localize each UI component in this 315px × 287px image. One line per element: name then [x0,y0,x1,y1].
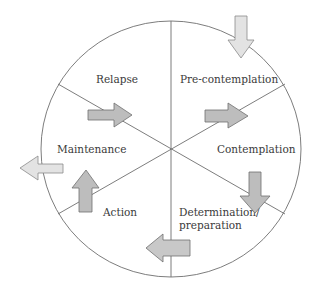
stage-label-precontemplation: Pre-contemplation [180,73,278,85]
stage-label-determination-line2: preparation [179,219,242,231]
stage-label-contemplation: Contemplation [217,143,296,155]
arrow-right-relapse-icon [88,103,132,127]
stages-of-change-diagram: Relapse Pre-contemplation Contemplation … [0,0,315,287]
stage-label-relapse: Relapse [96,73,138,85]
arrow-right-precontemplation-icon [205,103,248,128]
arrow-down-entry-icon [228,16,254,58]
stage-label-determination-line1: Determination/ [179,206,260,218]
arrow-up-action-icon [72,170,99,212]
stage-label-action: Action [102,206,137,218]
stage-label-maintenance: Maintenance [57,143,126,155]
arrow-left-determination-icon [146,234,190,262]
